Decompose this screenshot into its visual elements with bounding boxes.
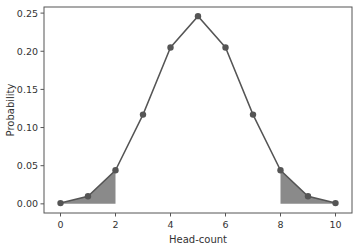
x-axis: 0246810	[57, 213, 341, 230]
x-tick-label: 6	[222, 219, 228, 230]
data-point	[277, 167, 283, 173]
data-point	[195, 13, 201, 19]
data-point	[112, 167, 118, 173]
x-tick-label: 8	[277, 219, 283, 230]
y-tick-label: 0.25	[17, 8, 38, 19]
x-axis-label: Head-count	[169, 234, 227, 245]
data-point	[222, 44, 228, 50]
data-point	[305, 193, 311, 199]
data-points	[57, 13, 338, 206]
y-axis: 0.000.050.100.150.200.25	[17, 8, 44, 210]
y-tick-label: 0.15	[17, 84, 38, 95]
y-tick-label: 0.10	[17, 122, 38, 133]
data-point	[250, 111, 256, 117]
x-tick-label: 0	[57, 219, 63, 230]
axes-frame	[44, 7, 352, 213]
y-tick-label: 0.00	[17, 198, 38, 209]
chart: 0246810 0.000.050.100.150.200.25 Head-co…	[0, 0, 357, 247]
x-tick-label: 4	[167, 219, 173, 230]
data-point	[167, 44, 173, 50]
y-tick-label: 0.05	[17, 160, 38, 171]
series-line	[61, 16, 336, 203]
data-point	[85, 193, 91, 199]
data-point	[140, 111, 146, 117]
data-point	[57, 200, 63, 206]
x-tick-label: 2	[112, 219, 118, 230]
shaded-tails	[61, 170, 336, 204]
y-tick-label: 0.20	[17, 46, 38, 57]
y-axis-label: Probability	[5, 83, 16, 136]
x-tick-label: 10	[329, 219, 341, 230]
data-point	[332, 200, 338, 206]
